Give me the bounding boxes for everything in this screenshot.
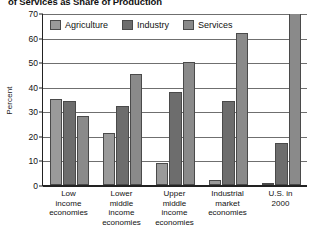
plot-area: 010203040506070 bbox=[42, 14, 307, 186]
bar[interactable] bbox=[289, 14, 302, 185]
bar[interactable] bbox=[50, 99, 63, 185]
bar[interactable] bbox=[209, 180, 222, 185]
legend-label: Services bbox=[198, 20, 233, 30]
x-axis-label-line: income bbox=[42, 199, 95, 209]
x-axis-label-line: Industrial bbox=[201, 189, 254, 199]
y-tick-label-60: 60 bbox=[29, 34, 38, 44]
x-axis-label-line: Lower bbox=[95, 189, 148, 199]
x-axis-label-line: middle bbox=[95, 199, 148, 209]
bar-chart-figure: of Services as Share of Production Perce… bbox=[0, 0, 316, 236]
y-tick-label-70: 70 bbox=[29, 9, 38, 19]
bar[interactable] bbox=[169, 92, 182, 185]
legend-label: Industry bbox=[137, 20, 169, 30]
x-axis-label-line: income bbox=[95, 208, 148, 218]
x-axis-label: Lowermiddleincomeeconomies bbox=[95, 189, 148, 227]
bar[interactable] bbox=[236, 33, 249, 185]
y-tick-label-30: 30 bbox=[29, 107, 38, 117]
legend-item-agriculture[interactable]: Agriculture bbox=[50, 20, 108, 30]
legend-swatch-icon bbox=[122, 20, 133, 30]
legend-swatch-icon bbox=[183, 20, 194, 30]
x-axis-label-line: U.S. in bbox=[254, 189, 307, 199]
y-tick-label-40: 40 bbox=[29, 83, 38, 93]
bar-group bbox=[96, 14, 149, 185]
x-axis-label-line: economies bbox=[148, 218, 201, 228]
gridline-0 bbox=[43, 186, 307, 187]
bar[interactable] bbox=[222, 101, 235, 185]
legend-label: Agriculture bbox=[65, 20, 108, 30]
y-tick-label-10: 10 bbox=[29, 156, 38, 166]
legend-swatch-icon bbox=[50, 20, 61, 30]
legend-item-services[interactable]: Services bbox=[183, 20, 233, 30]
x-axis-label: U.S. in2000 bbox=[254, 189, 307, 208]
y-tick-label-20: 20 bbox=[29, 132, 38, 142]
bar[interactable] bbox=[275, 143, 288, 185]
x-axis-label-line: 2000 bbox=[254, 199, 307, 209]
x-axis-label-line: economies bbox=[42, 208, 95, 218]
x-axis-label: Industrialmarketeconomies bbox=[201, 189, 254, 218]
y-tick-label-50: 50 bbox=[29, 58, 38, 68]
bar-group bbox=[43, 14, 96, 185]
bar[interactable] bbox=[130, 74, 143, 185]
y-tick-mark-0 bbox=[39, 186, 43, 187]
x-axis-label-line: middle bbox=[148, 199, 201, 209]
chart-title: of Services as Share of Production bbox=[8, 0, 162, 7]
y-axis-title: Percent bbox=[5, 78, 14, 124]
y-tick-label-0: 0 bbox=[33, 181, 38, 191]
bar[interactable] bbox=[116, 106, 129, 185]
x-axis-label: Lowincomeeconomies bbox=[42, 189, 95, 218]
bar-series-container bbox=[43, 14, 307, 185]
x-axis-label-line: Low bbox=[42, 189, 95, 199]
x-axis-label-line: economies bbox=[95, 218, 148, 228]
x-axis-label-line: market bbox=[201, 199, 254, 209]
x-axis-label-line: economies bbox=[201, 208, 254, 218]
bar-group bbox=[202, 14, 255, 185]
x-axis-label-line: income bbox=[148, 208, 201, 218]
chart-legend: AgricultureIndustryServices bbox=[50, 20, 233, 30]
bar[interactable] bbox=[77, 116, 90, 185]
bar-group bbox=[255, 14, 307, 185]
legend-item-industry[interactable]: Industry bbox=[122, 20, 169, 30]
bar[interactable] bbox=[63, 101, 76, 185]
bar-group bbox=[149, 14, 202, 185]
bar[interactable] bbox=[156, 163, 169, 185]
bar[interactable] bbox=[183, 62, 196, 185]
x-axis-label: Uppermiddleincomeeconomies bbox=[148, 189, 201, 227]
bar[interactable] bbox=[262, 183, 275, 185]
x-axis-label-line: Upper bbox=[148, 189, 201, 199]
bar[interactable] bbox=[103, 133, 116, 185]
x-axis-category-labels: LowincomeeconomiesLowermiddleincomeecono… bbox=[42, 189, 307, 235]
